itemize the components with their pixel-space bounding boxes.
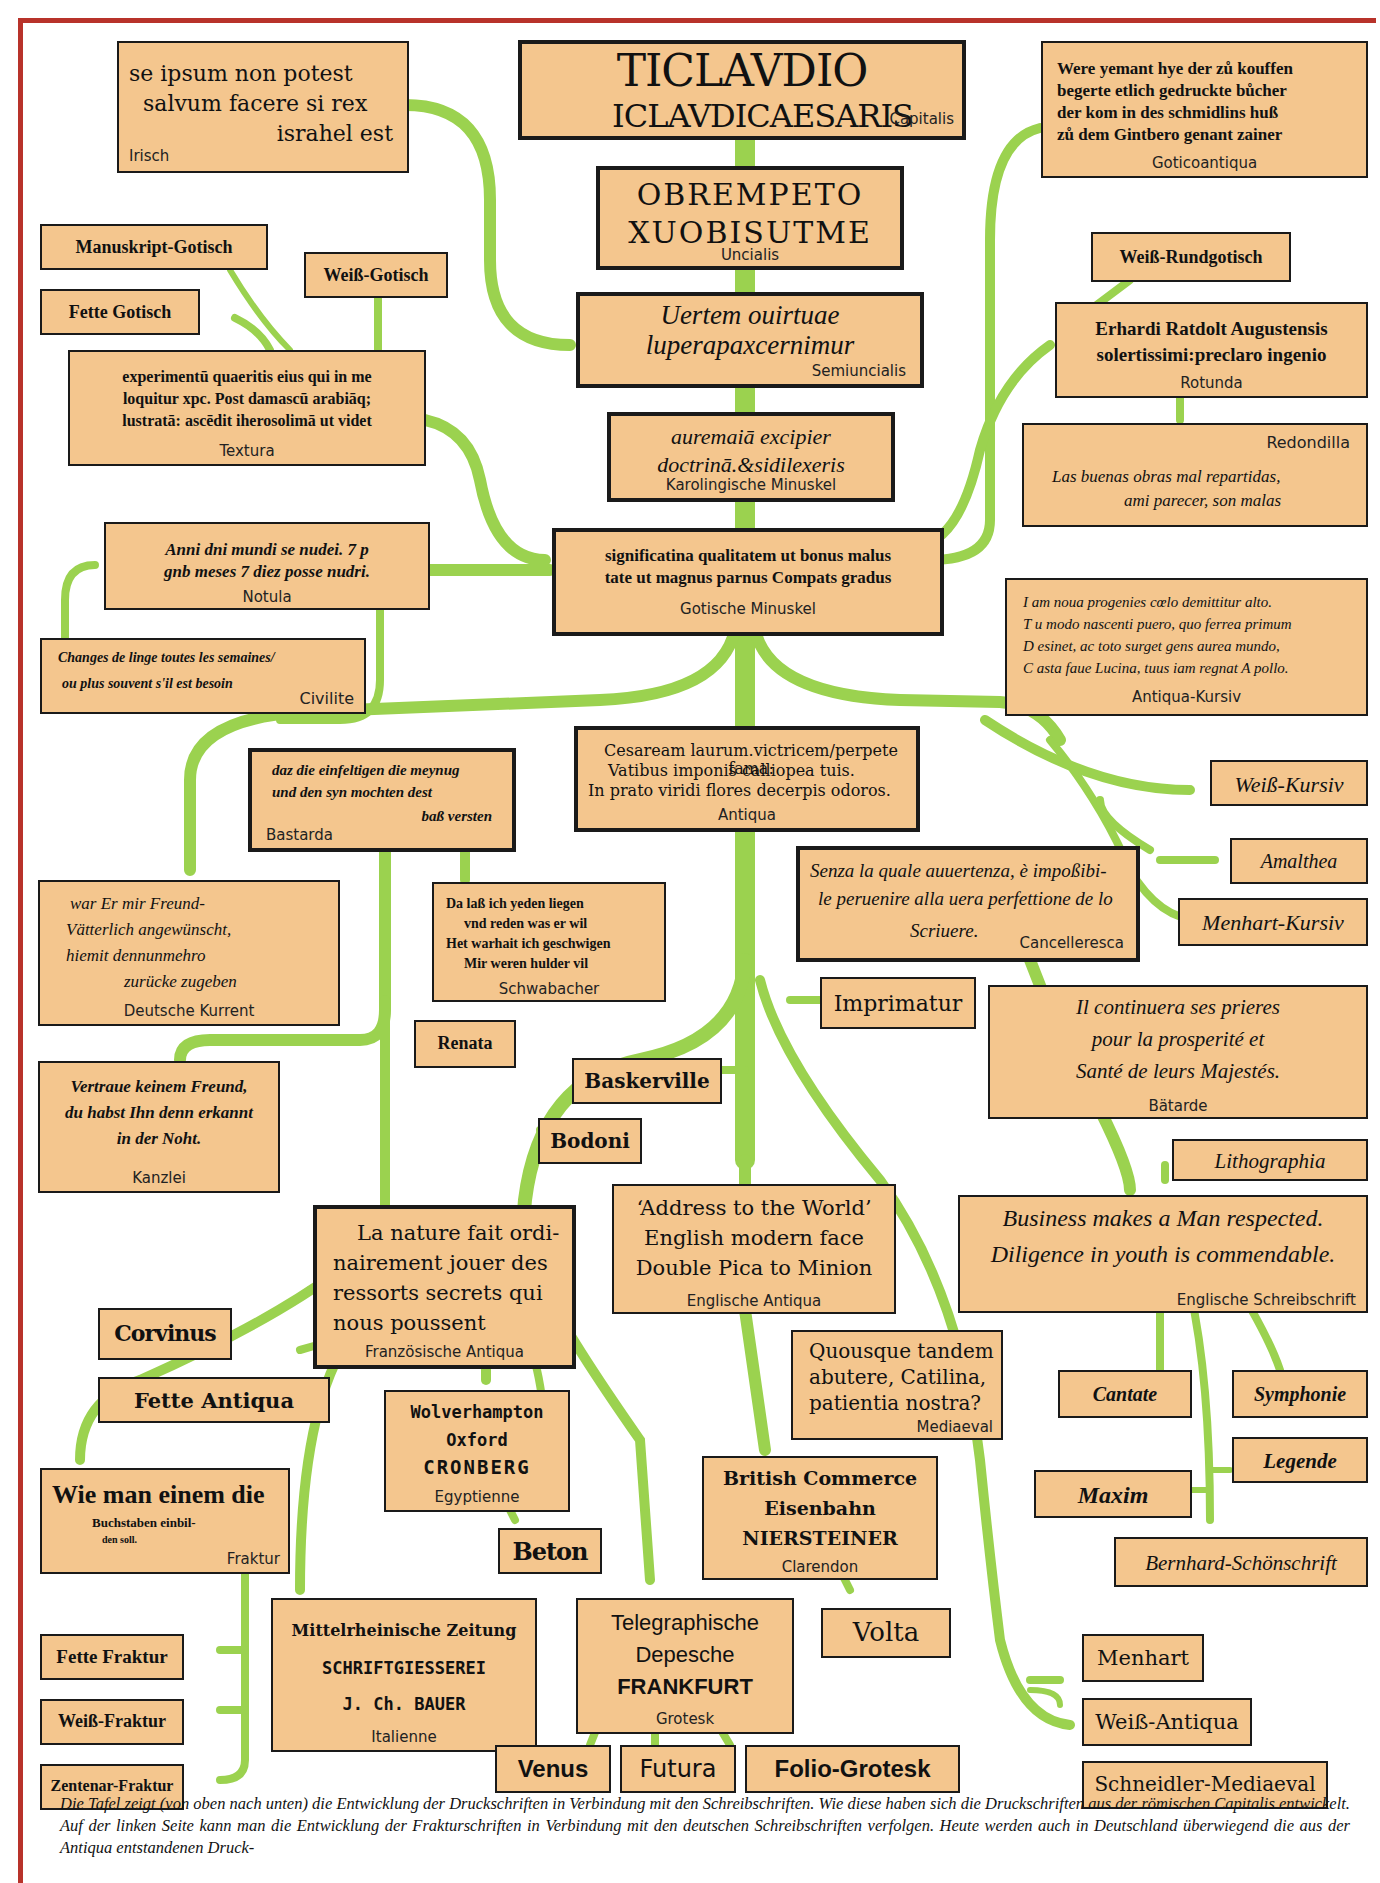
sample-kanzlei-2: du habst Ihn denn erkannt (40, 1103, 278, 1123)
node-goticoantiqua: Were yemant hye der zů kouffen begerte e… (1041, 41, 1368, 178)
node-franzoesische-antiqua: La nature fait ordi- nairement jouer des… (313, 1205, 576, 1369)
node-schwabacher: Da laß ich yeden liegen vnd reden was er… (432, 882, 666, 1002)
sample-kurrent-2: Vätterlich angewünscht, (66, 920, 231, 940)
node-menhart: Menhart (1082, 1634, 1204, 1682)
sample-semiuncialis-2: luperapaxcernimur (580, 330, 920, 361)
sample-grotesk-3: FRANKFURT (578, 1674, 792, 1700)
node-antiqua-kursiv: I am noua progenies cœlo demittitur alto… (1005, 578, 1368, 716)
label-clarendon: Clarendon (704, 1558, 936, 1576)
node-lithographia: Lithographia (1172, 1139, 1368, 1181)
sample-franz-4: nous poussent (333, 1311, 486, 1335)
label-volta: Volta (823, 1618, 949, 1648)
sample-civilite-1: Changes de linge toutes les semaines/ (58, 650, 275, 666)
caption-text: Die Tafel zeigt (von oben nach unten) di… (60, 1793, 1350, 1859)
node-folio-grotesk: Folio-Grotesk (745, 1745, 960, 1793)
label-venus: Venus (497, 1755, 609, 1783)
label-notula: Notula (106, 588, 428, 606)
node-textura: experimentū quaeritis eius qui in me loq… (68, 350, 426, 466)
label-fraktur: Fraktur (227, 1550, 280, 1568)
sample-italienne-3: J. Ch. BAUER (273, 1694, 535, 1714)
node-fette-gotisch: Fette Gotisch (40, 289, 200, 335)
sample-clarendon-2: Eisenbahn (704, 1498, 936, 1520)
sample-clarendon-3: NIERSTEINER (704, 1528, 936, 1550)
node-volta: Volta (821, 1608, 951, 1658)
label-lithographia: Lithographia (1174, 1149, 1366, 1173)
node-fraktur: Wie man einem die Buchstaben einbil- den… (40, 1468, 290, 1574)
sample-batarde-2: pour la prosperité et (990, 1027, 1366, 1051)
label-irisch: Irisch (129, 147, 169, 165)
node-weiss-kursiv: Weiß-Kursiv (1210, 760, 1368, 806)
node-notula: Anni dni mundi se nudei. 7 p gnb meses 7… (104, 522, 430, 610)
sample-englische-antiqua-2: English modern face (614, 1226, 894, 1250)
label-textura: Textura (70, 442, 424, 460)
sample-franz-1: La nature fait ordi- (357, 1221, 559, 1245)
label-menhart: Menhart (1084, 1646, 1202, 1670)
sample-mediaeval-3: patientia nostra? (809, 1392, 981, 1415)
label-cancelleresca: Cancelleresca (1019, 934, 1124, 952)
sample-cancelleresca-3: Scriuere. (910, 920, 978, 942)
sample-textura-3: lustratā: ascēdit iherosolimā ut videt (70, 412, 424, 430)
sample-capitalis-1: TICLAVDIO (522, 46, 962, 97)
sample-notula-1: Anni dni mundi se nudei. 7 p (106, 540, 428, 560)
sample-schwabacher-3: Het warhait ich geschwigen (446, 936, 610, 952)
sample-rotunda-1: Erhardi Ratdolt Augustensis (1057, 318, 1366, 340)
label-weiss-antiqua: Weiß-Antiqua (1084, 1710, 1250, 1734)
label-redondilla: Redondilla (1266, 433, 1350, 452)
sample-franz-2: nairement jouer des (333, 1251, 548, 1275)
label-batarde: Bätarde (990, 1097, 1366, 1115)
node-fette-antiqua: Fette Antiqua (98, 1377, 330, 1423)
label-maxim: Maxim (1036, 1482, 1190, 1510)
sample-goticoantiqua-4: zů dem Gintbero genant zainer (1057, 125, 1282, 145)
sample-textura-2: loquitur xpc. Post damascū arabiāq; (70, 390, 424, 408)
node-rotunda: Erhardi Ratdolt Augustensis solertissimi… (1055, 302, 1368, 398)
label-symphonie: Symphonie (1234, 1383, 1366, 1406)
sample-bastarda-1: daz die einfeltigen die meynug (272, 762, 459, 779)
node-baskerville: Baskerville (572, 1058, 722, 1104)
sample-redondilla-1: Las buenas obras mal repartidas, (1052, 467, 1280, 487)
sample-bastarda-3: baß versten (422, 808, 492, 825)
sample-irisch-1: se ipsum non potest (129, 61, 353, 86)
node-bodoni: Bodoni (538, 1118, 642, 1164)
label-englische-antiqua: Englische Antiqua (614, 1292, 894, 1310)
sample-uncialis-1: OBREMPETO (600, 178, 900, 213)
sample-antiqua-3: In prato viridi flores decerpis odoros. (588, 782, 891, 800)
label-gotische: Gotische Minuskel (556, 600, 940, 618)
sample-notula-2: gnb meses 7 diez posse nudri. (106, 562, 428, 582)
sample-kanzlei-3: in der Noht. (40, 1129, 278, 1149)
sample-schwabacher-2: vnd reden was er wil (464, 916, 587, 932)
node-capitalis: TICLAVDIO ICLAVDICAESARIS Capitalis (518, 40, 966, 140)
node-englische-schreibschrift: Business makes a Man respected. Diligenc… (958, 1195, 1368, 1313)
node-deutsche-kurrent: war Er mir Freund- Vätterlich angewünsch… (38, 880, 340, 1026)
node-irisch: se ipsum non potest salvum facere si rex… (117, 41, 409, 173)
sample-cancelleresca-1: Senza la quale auuertenza, è impoßibi- (810, 860, 1107, 882)
sample-redondilla-2: ami parecer, son malas (1124, 491, 1281, 511)
sample-grotesk-1: Telegraphische (578, 1610, 792, 1636)
node-beton: Beton (498, 1528, 602, 1574)
label-cantate: Cantate (1060, 1383, 1190, 1406)
label-antiqua-kursiv: Antiqua-Kursiv (1007, 688, 1366, 706)
sample-gotische-1: significatina qualitatem ut bonus malus (556, 546, 940, 566)
node-manuskript-gotisch: Manuskript-Gotisch (40, 224, 268, 270)
label-kanzlei: Kanzlei (40, 1169, 278, 1187)
sample-goticoantiqua-1: Were yemant hye der zů kouffen (1057, 59, 1293, 79)
node-cantate: Cantate (1058, 1370, 1192, 1418)
node-mediaeval: Quousque tandem abutere, Catilina, patie… (791, 1330, 1003, 1440)
label-imprimatur: Imprimatur (822, 991, 974, 1016)
sample-englische-antiqua-1: ‘Address to the World’ (614, 1196, 894, 1220)
sample-fraktur-2: Buchstaben einbil- (92, 1516, 196, 1531)
node-semiuncialis: Uertem ouirtuae luperapaxcernimur Semiun… (576, 292, 924, 388)
sample-karolingische-1: auremaiā excipier (611, 424, 891, 449)
label-fette-gotisch: Fette Gotisch (42, 302, 198, 323)
label-renata: Renata (416, 1033, 514, 1054)
label-rotunda: Rotunda (1057, 374, 1366, 392)
node-imprimatur: Imprimatur (820, 977, 976, 1029)
label-kurrent: Deutsche Kurrent (40, 1002, 338, 1020)
node-uncialis: OBREMPETO XUOBISUTME Uncialis (596, 166, 904, 270)
label-antiqua: Antiqua (578, 806, 916, 824)
sample-egyptienne-1: Wolverhampton (386, 1402, 568, 1422)
sample-kurrent-1: war Er mir Freund- (70, 894, 205, 914)
node-kanzlei: Vertraue keinem Freund, du habst Ihn den… (38, 1061, 280, 1193)
sample-kurrent-4: zurücke zugeben (124, 972, 237, 992)
sample-batarde-3: Santé de leurs Majestés. (990, 1059, 1366, 1083)
node-corvinus: Corvinus (98, 1308, 232, 1360)
